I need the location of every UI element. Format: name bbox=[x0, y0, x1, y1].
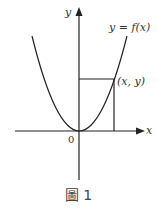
curve-label: y = f(x) bbox=[108, 21, 150, 34]
figure-caption: 圖 1 bbox=[0, 184, 157, 204]
origin-label: 0 bbox=[68, 134, 74, 145]
x-axis-arrow-icon bbox=[136, 128, 145, 135]
point-label: (x, y) bbox=[117, 75, 145, 88]
y-axis-arrow-icon bbox=[76, 7, 83, 16]
y-axis-label: y bbox=[64, 6, 72, 19]
parabola-diagram: y x 0 y = f(x) (x, y) bbox=[0, 0, 157, 210]
x-axis-label: x bbox=[146, 124, 153, 137]
